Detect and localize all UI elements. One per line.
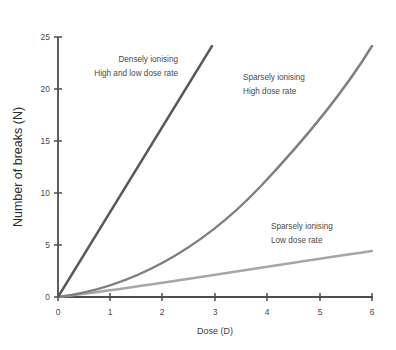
- annotation-sparsely-low-dose: Sparsely ionising Low dose rate: [271, 222, 333, 245]
- y-tick-label-10: 10: [41, 188, 51, 198]
- y-tick-label-20: 20: [41, 84, 51, 94]
- annot-sparsely-high-line1: Sparsely ionising: [243, 73, 305, 82]
- series-line-densely: [58, 46, 212, 297]
- dose-response-chart: 0 5 10 15 20 25 0 1 2 3 4 5 6 Dose (D) N…: [0, 0, 396, 350]
- y-axis-title: Number of breaks (N): [11, 107, 25, 227]
- y-tick-label-5: 5: [45, 240, 50, 250]
- x-tick-label-4: 4: [265, 307, 270, 317]
- x-tick-label-1: 1: [108, 307, 113, 317]
- x-tick-label-5: 5: [318, 307, 323, 317]
- series-line-sparsely-high: [58, 46, 372, 297]
- annot-densely-line2: High and low dose rate: [94, 69, 178, 78]
- x-tick-label-2: 2: [160, 307, 165, 317]
- x-tick-label-0: 0: [56, 307, 61, 317]
- series-line-sparsely-low: [58, 251, 372, 297]
- annotation-densely-ionising: Densely ionising High and low dose rate: [94, 55, 178, 78]
- annot-densely-line1: Densely ionising: [118, 55, 178, 64]
- x-tick-label-3: 3: [213, 307, 218, 317]
- annot-sparsely-low-line2: Low dose rate: [271, 236, 323, 245]
- y-tick-label-25: 25: [41, 32, 51, 42]
- chart-container: 0 5 10 15 20 25 0 1 2 3 4 5 6 Dose (D) N…: [0, 0, 396, 350]
- x-axis-title: Dose (D): [197, 326, 233, 336]
- annot-sparsely-low-line1: Sparsely ionising: [271, 222, 333, 231]
- annotation-sparsely-high-dose: Sparsely ionising High dose rate: [243, 73, 305, 96]
- y-tick-label-0: 0: [45, 292, 50, 302]
- annot-sparsely-high-line2: High dose rate: [243, 87, 297, 96]
- x-tick-label-6: 6: [370, 307, 375, 317]
- y-tick-label-15: 15: [41, 136, 51, 146]
